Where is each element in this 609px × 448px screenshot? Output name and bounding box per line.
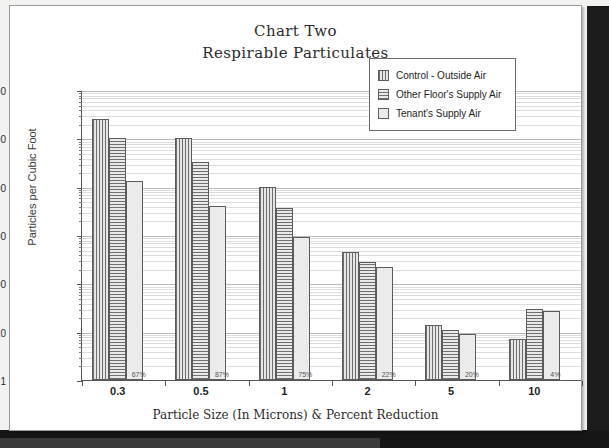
- y-tick-label: 1000: [0, 231, 6, 242]
- bar: [442, 330, 459, 380]
- bar: [509, 339, 526, 380]
- scan-edge-bottom-secondary: [0, 438, 380, 448]
- x-tick-label: 0.5: [193, 385, 208, 397]
- legend-label-0: Control - Outside Air: [396, 70, 486, 81]
- y-axis-title: Particles per Cubic Foot: [26, 87, 38, 287]
- bar: [425, 325, 442, 380]
- legend-item-0: Control - Outside Air: [378, 66, 507, 85]
- legend: Control - Outside Air Other Floor's Supp…: [369, 58, 516, 131]
- x-tick-mark: [415, 381, 416, 386]
- chart-sheet: Chart Two Respirable Particulates Partic…: [9, 5, 582, 431]
- bar: [109, 138, 126, 380]
- x-tick-label: 2: [365, 385, 371, 397]
- y-tick-label: 1: [0, 376, 6, 387]
- x-tick-mark: [332, 381, 333, 386]
- y-tick-label: 10: [0, 327, 6, 338]
- legend-item-1: Other Floor's Supply Air: [378, 85, 507, 104]
- bar: [259, 187, 276, 380]
- plot-area: 1000000100000100001000100101 67%87%75%22…: [81, 91, 581, 381]
- x-tick-mark: [582, 381, 583, 386]
- y-tick-label: 100: [0, 279, 6, 290]
- x-tick-label: 5: [448, 385, 454, 397]
- bar: [276, 208, 293, 380]
- bar: [342, 252, 359, 380]
- bar: [376, 267, 393, 380]
- percent-reduction-label: 75%: [297, 371, 314, 378]
- percent-reduction-label: 22%: [380, 371, 397, 378]
- x-tick-label: 1: [281, 385, 287, 397]
- scanned-page: Chart Two Respirable Particulates Partic…: [0, 0, 609, 448]
- bar: [175, 138, 192, 380]
- bar: [526, 309, 543, 380]
- y-tick-label: 100000: [0, 134, 6, 145]
- x-tick-mark: [249, 381, 250, 386]
- bar-group: 22%: [332, 91, 415, 380]
- legend-label-2: Tenant's Supply Air: [396, 108, 481, 119]
- scan-edge-right: [587, 6, 609, 448]
- bar: [359, 262, 376, 380]
- legend-swatch-icon-2: [378, 108, 389, 119]
- y-tick-label: 10000: [0, 182, 6, 193]
- bar-group: 87%: [165, 91, 248, 380]
- x-tick-label: 0.3: [110, 385, 125, 397]
- y-tick-label: 1000000: [0, 86, 6, 97]
- chart-title: Chart Two: [10, 22, 581, 40]
- bar-group: 67%: [82, 91, 165, 380]
- bar: [126, 181, 143, 380]
- bar-group: 20%: [415, 91, 498, 380]
- legend-swatch-icon-0: [378, 70, 389, 81]
- legend-item-2: Tenant's Supply Air: [378, 104, 507, 123]
- x-tick-mark: [165, 381, 166, 386]
- bar-group: 4%: [499, 91, 582, 380]
- bar-group: 75%: [249, 91, 332, 380]
- x-tick-mark: [499, 381, 500, 386]
- percent-reduction-label: 4%: [547, 371, 564, 378]
- x-tick-label: 10: [528, 385, 540, 397]
- bar: [543, 311, 560, 380]
- percent-reduction-label: 20%: [463, 371, 480, 378]
- legend-swatch-icon-1: [378, 89, 389, 100]
- percent-reduction-label: 87%: [213, 371, 230, 378]
- bar: [192, 162, 209, 380]
- x-tick-mark: [82, 381, 83, 386]
- bar: [293, 237, 310, 380]
- x-axis-title: Particle Size (In Microns) & Percent Red…: [10, 408, 581, 422]
- percent-reduction-label: 67%: [130, 371, 147, 378]
- bar: [209, 206, 226, 380]
- bar: [92, 119, 109, 380]
- legend-label-1: Other Floor's Supply Air: [396, 89, 501, 100]
